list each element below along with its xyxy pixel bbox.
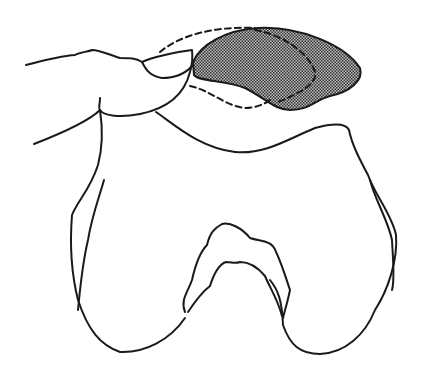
femur-lateral-edge (71, 110, 185, 352)
fingernail (142, 62, 192, 78)
femur-lateral-inner (78, 180, 104, 310)
patella-diagram (0, 0, 424, 373)
intercondylar-notch-inner (188, 262, 282, 316)
femur-medial-inner (370, 180, 394, 290)
finger (26, 50, 192, 144)
femur-distal-end (156, 112, 396, 354)
intercondylar-notch-outer (183, 224, 290, 318)
